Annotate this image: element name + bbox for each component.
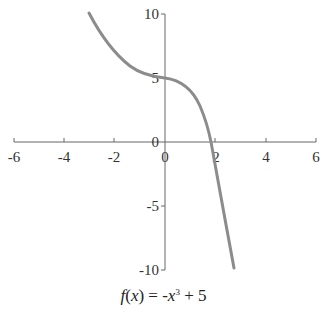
y-tick-label: -10 [139,262,159,278]
function-caption: f(x) = -x3 + 5 [0,286,327,306]
x-tick-label: 6 [312,149,320,165]
x-tick-label: 4 [262,149,270,165]
y-tick-label: -5 [147,198,160,214]
chart-canvas: -6 -4 -2 0 2 4 6 10 5 0 -5 -10 [0,0,327,316]
caption-equals: = - [144,286,168,305]
function-curve [89,13,234,268]
y-tick-label: 10 [144,6,159,22]
caption-rest: + 5 [180,286,207,305]
caption-var: x [131,286,139,305]
x-tick-label: -2 [108,149,121,165]
x-tick-label: 0 [161,149,169,165]
x-tick-label: -4 [58,149,71,165]
caption-fname: f [120,286,125,305]
y-tick-label: 0 [152,134,160,150]
x-tick-label: -6 [8,149,21,165]
